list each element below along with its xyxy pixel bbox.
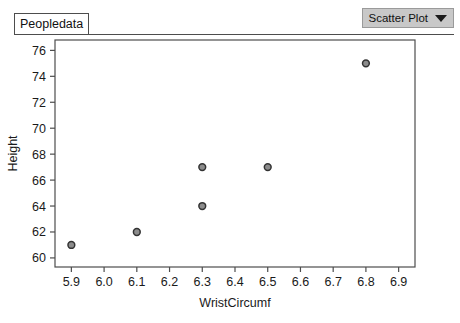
- plot-type-dropdown[interactable]: Scatter Plot: [362, 8, 454, 28]
- x-axis-tick-label: 6.7: [324, 275, 341, 289]
- y-axis-tick-label: 76: [32, 44, 46, 58]
- data-point[interactable]: [199, 203, 206, 210]
- y-axis-tick-label: 70: [32, 122, 46, 136]
- x-axis-tick-label: 6.2: [161, 275, 178, 289]
- scatter-plot: 606264666870727476 5.96.06.16.26.36.46.5…: [0, 36, 460, 323]
- y-axis-tick-label: 62: [32, 225, 46, 239]
- data-points[interactable]: [68, 60, 369, 248]
- plot-frame: [55, 40, 415, 267]
- data-point[interactable]: [133, 229, 140, 236]
- y-axis-tick-label: 74: [32, 70, 46, 84]
- x-axis-tick-label: 6.5: [259, 275, 276, 289]
- x-axis-tick-label: 6.1: [128, 275, 145, 289]
- x-axis-ticks: 5.96.06.16.26.36.46.56.66.76.86.9: [63, 267, 408, 289]
- dataset-tab[interactable]: Peopledata: [14, 13, 89, 34]
- chevron-down-icon: [435, 15, 447, 22]
- data-point[interactable]: [68, 242, 75, 249]
- x-axis-tick-label: 6.9: [390, 275, 407, 289]
- x-axis-tick-label: 6.0: [95, 275, 112, 289]
- y-axis-title: Height: [6, 135, 20, 172]
- data-point[interactable]: [264, 164, 271, 171]
- data-point[interactable]: [363, 60, 370, 67]
- x-axis-tick-label: 6.6: [292, 275, 309, 289]
- y-axis-ticks: 606264666870727476: [32, 44, 55, 266]
- toolbar: Peopledata Scatter Plot: [0, 0, 460, 36]
- y-axis-tick-label: 68: [32, 148, 46, 162]
- x-axis-tick-label: 6.3: [194, 275, 211, 289]
- x-axis-tick-label: 6.4: [226, 275, 243, 289]
- y-axis-tick-label: 72: [32, 96, 46, 110]
- y-axis-tick-label: 64: [32, 200, 46, 214]
- x-axis-title: WristCircumf: [199, 296, 271, 310]
- data-point[interactable]: [199, 164, 206, 171]
- scatter-plot-canvas[interactable]: 606264666870727476 5.96.06.16.26.36.46.5…: [0, 36, 460, 323]
- y-axis-tick-label: 60: [32, 251, 46, 265]
- plot-type-dropdown-label: Scatter Plot: [369, 12, 428, 24]
- x-axis-tick-label: 6.8: [357, 275, 374, 289]
- y-axis-tick-label: 66: [32, 174, 46, 188]
- x-axis-tick-label: 5.9: [63, 275, 80, 289]
